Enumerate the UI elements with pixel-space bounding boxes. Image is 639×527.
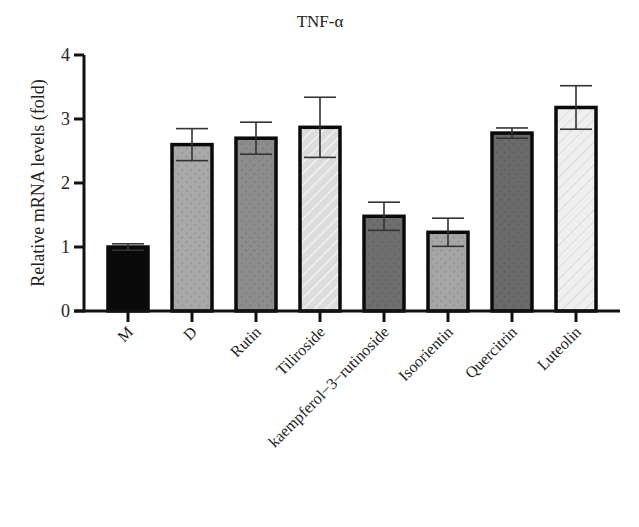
bar-m bbox=[108, 247, 148, 311]
x-tick-label: Rutin bbox=[227, 323, 264, 360]
y-tick-label: 0 bbox=[61, 301, 70, 321]
y-axis-label: Relative mRNA levels (fold) bbox=[28, 79, 49, 286]
y-tick-label: 3 bbox=[61, 109, 70, 129]
bar-luteolin bbox=[556, 107, 596, 311]
y-tick-label: 4 bbox=[61, 45, 70, 65]
x-axis-labels: MDRutinTilirosidekaempferol−3−rutinoside… bbox=[114, 323, 584, 451]
y-axis-ticks: 01234 bbox=[61, 45, 84, 321]
chart-title: TNF-α bbox=[297, 12, 344, 31]
bar-texture bbox=[238, 140, 274, 309]
x-tick-label: D bbox=[180, 323, 200, 343]
x-tick-label: Tiliroside bbox=[273, 323, 329, 379]
y-tick-label: 2 bbox=[61, 173, 70, 193]
bar-texture bbox=[494, 135, 530, 309]
x-tick-label: Luteolin bbox=[534, 323, 584, 373]
bar-texture bbox=[174, 147, 210, 309]
bar-texture bbox=[366, 218, 402, 309]
x-tick-label: Quercitrin bbox=[462, 323, 521, 382]
y-tick-label: 1 bbox=[61, 237, 70, 257]
bar-chart: TNF-α Relative mRNA levels (fold) 01234 … bbox=[0, 0, 639, 527]
x-tick-label: kaempferol−3−rutinoside bbox=[265, 323, 393, 451]
x-tick-label: Isoorientin bbox=[395, 323, 456, 384]
x-tick-label: M bbox=[114, 323, 136, 345]
